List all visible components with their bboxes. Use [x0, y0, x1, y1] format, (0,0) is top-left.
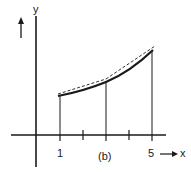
x-tick-label-5: 5 — [148, 148, 154, 159]
right-arrow-icon — [160, 151, 178, 157]
y-axis-label: y — [33, 4, 39, 15]
trapezoid-rule-diagram — [0, 0, 191, 173]
x-tick-label-1: 1 — [57, 148, 63, 159]
x-axis-label: x — [180, 148, 186, 159]
figure-label: (b) — [98, 151, 111, 162]
up-arrow-icon — [18, 17, 24, 38]
